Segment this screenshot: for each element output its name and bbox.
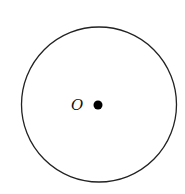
circle-diagram: O [0, 0, 185, 194]
center-label: O [71, 96, 83, 114]
center-point [94, 101, 103, 110]
